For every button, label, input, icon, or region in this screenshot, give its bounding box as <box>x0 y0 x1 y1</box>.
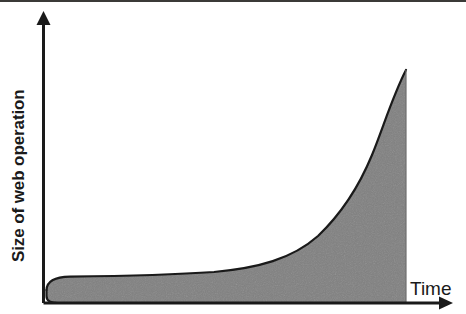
area-fill-group <box>47 70 407 303</box>
chart-figure: Size of web operation Time <box>0 0 466 314</box>
x-axis-label: Time <box>410 279 452 298</box>
y-axis <box>37 11 51 303</box>
area-fill <box>47 70 407 303</box>
y-axis-arrow-icon <box>37 11 51 25</box>
y-axis-label: Size of web operation <box>10 89 27 262</box>
chart-plot-area <box>0 0 466 314</box>
